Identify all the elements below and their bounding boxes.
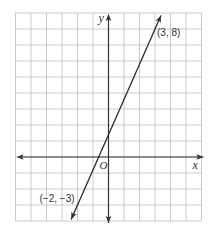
point-label-neg2-neg3: (−2, −3)	[40, 193, 75, 204]
coordinate-graph: y x O (3, 8) (−2, −3)	[0, 0, 212, 233]
origin-label: O	[100, 159, 108, 171]
labels: y x O (3, 8) (−2, −3)	[40, 11, 199, 204]
x-axis-label: x	[192, 158, 199, 172]
y-axis-label: y	[98, 11, 105, 25]
point-label-3-8: (3, 8)	[157, 27, 180, 38]
